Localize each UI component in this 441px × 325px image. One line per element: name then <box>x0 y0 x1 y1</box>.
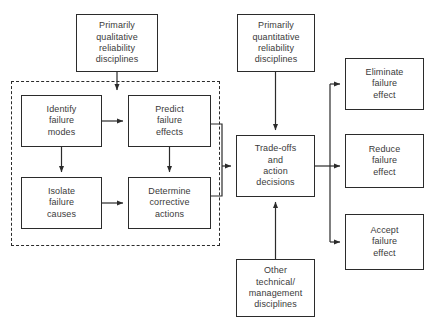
node-label: Identify failure modes <box>45 104 79 138</box>
node-label: Other technical/ management disciplines <box>247 265 305 311</box>
node-determine-corrective-actions[interactable]: Determine corrective actions <box>128 177 211 229</box>
node-primarily-quantitative[interactable]: Primarily quantitative reliability disci… <box>237 14 315 72</box>
node-other-technical-management[interactable]: Other technical/ management disciplines <box>236 259 315 317</box>
flowchart-canvas: Primarily qualitative reliability discip… <box>0 0 441 325</box>
node-label: Reduce failure effect <box>367 144 403 178</box>
node-label: Eliminate failure effect <box>364 67 406 101</box>
node-trade-offs-and-action-decisions[interactable]: Trade-offs and action decisions <box>236 135 315 197</box>
node-identify-failure-modes[interactable]: Identify failure modes <box>21 95 102 147</box>
node-label: Determine corrective actions <box>146 186 192 220</box>
node-label: Trade-offs and action decisions <box>253 143 299 189</box>
node-primarily-qualitative[interactable]: Primarily qualitative reliability discip… <box>76 14 158 72</box>
node-reduce-failure-effect[interactable]: Reduce failure effect <box>345 134 424 188</box>
node-label: Predict failure effects <box>153 104 186 138</box>
node-label: Primarily qualitative reliability discip… <box>94 20 141 66</box>
node-predict-failure-effects[interactable]: Predict failure effects <box>128 95 211 147</box>
node-eliminate-failure-effect[interactable]: Eliminate failure effect <box>345 58 424 110</box>
node-label: Accept failure effect <box>368 225 400 259</box>
node-label: Isolate failure causes <box>45 186 78 220</box>
node-label: Primarily quantitative reliability disci… <box>250 20 301 66</box>
node-accept-failure-effect[interactable]: Accept failure effect <box>345 214 424 270</box>
node-isolate-failure-causes[interactable]: Isolate failure causes <box>21 177 102 229</box>
